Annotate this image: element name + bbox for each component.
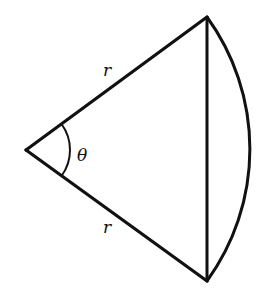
angle-label: θ [77, 147, 87, 164]
sector-drawing [0, 0, 263, 299]
sector-arc [207, 17, 250, 281]
sector-diagram: r r θ [0, 0, 263, 299]
radius-line-bottom [26, 150, 207, 281]
radius-label-bottom: r [103, 219, 111, 236]
radius-label-top: r [103, 62, 111, 79]
radius-line-top [26, 17, 207, 150]
angle-marker-arc [62, 124, 71, 176]
